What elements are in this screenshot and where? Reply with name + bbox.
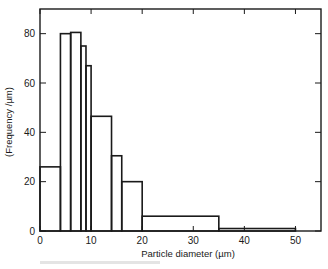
histogram-bar — [71, 32, 81, 231]
histogram-bar — [142, 216, 219, 231]
figure-caption-faint — [40, 259, 240, 265]
histogram-bar — [91, 116, 111, 231]
x-tick-label: 30 — [188, 235, 200, 246]
histogram-bar — [122, 182, 142, 231]
x-tick-label: 0 — [37, 235, 43, 246]
x-tick-label: 20 — [137, 235, 149, 246]
x-tick-label: 10 — [86, 235, 98, 246]
y-tick-label: 20 — [24, 176, 36, 187]
y-tick-label: 40 — [24, 127, 36, 138]
y-tick-label: 80 — [24, 28, 36, 39]
histogram-bar — [40, 167, 60, 231]
x-axis-title: Particle diameter (µm) — [141, 248, 235, 259]
y-tick-label: 0 — [29, 226, 35, 237]
y-axis-ticks: 020406080 — [24, 28, 321, 236]
plot-frame — [40, 9, 321, 231]
y-axis-title: (Frequency /µm) — [3, 87, 14, 157]
x-axis-ticks: 01020304050 — [37, 9, 301, 246]
x-tick-label: 40 — [239, 235, 251, 246]
histogram-bars — [40, 32, 295, 231]
y-tick-label: 60 — [24, 78, 36, 89]
histogram-chart: 01020304050 020406080 Particle diameter … — [0, 0, 328, 269]
histogram-bar — [60, 34, 70, 231]
histogram-bar — [112, 156, 122, 231]
x-tick-label: 50 — [290, 235, 302, 246]
